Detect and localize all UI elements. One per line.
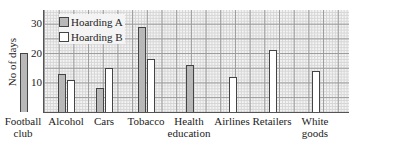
legend-item-hoarding-b: Hoarding B [59, 29, 125, 44]
bar-b-2 [105, 68, 113, 112]
x-label-4: Healtheducation [168, 115, 211, 139]
legend-label-b: Hoarding B [71, 31, 123, 43]
x-label-7: Whitegoods [302, 115, 329, 139]
x-label-6: Retailers [252, 115, 291, 127]
bar-a-4 [186, 65, 194, 112]
bar-a-1 [58, 74, 66, 112]
y-tick-30: 30 [31, 17, 42, 29]
x-label-0: Footballclub [5, 115, 42, 139]
legend-item-hoarding-a: Hoarding A [59, 14, 125, 29]
legend-swatch-b [59, 32, 69, 42]
legend: Hoarding A Hoarding B [59, 14, 125, 44]
bar-a-3 [138, 27, 146, 112]
y-tick-20: 20 [31, 47, 42, 59]
bar-b-7 [312, 71, 320, 112]
bar-b-6 [269, 50, 277, 112]
y-tick-10: 10 [31, 76, 42, 88]
legend-label-a: Hoarding A [71, 16, 123, 28]
x-label-5: Airlines [214, 115, 249, 127]
bar-b-5 [229, 77, 237, 112]
x-label-3: Tobacco [127, 115, 164, 127]
x-label-2: Cars [94, 115, 114, 127]
x-label-1: Alcohol [48, 115, 83, 127]
bar-a-2 [96, 88, 104, 112]
legend-swatch-a [59, 17, 69, 27]
bar-a-0 [20, 53, 28, 112]
bar-b-1 [67, 80, 75, 112]
bar-b-3 [147, 59, 155, 112]
